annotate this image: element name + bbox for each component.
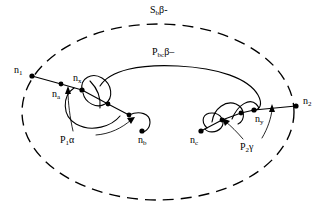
node-dot-n2[interactable] bbox=[293, 103, 298, 108]
subpath-label-p1-alpha: P1α bbox=[60, 135, 74, 147]
node-label-ny-sub: y bbox=[260, 118, 264, 126]
node-dot-nx[interactable] bbox=[79, 87, 84, 92]
left-knot-right-hook bbox=[129, 113, 150, 132]
node-label-nx-sub: x bbox=[78, 77, 82, 85]
node-label-nb-sub: b bbox=[143, 139, 147, 147]
node-label-nc: nc bbox=[190, 135, 198, 147]
node-dot-nc[interactable] bbox=[198, 128, 203, 133]
leader-p2-to-knot bbox=[226, 122, 243, 139]
node-label-na-sub: a bbox=[57, 93, 60, 101]
diagram-canvas bbox=[0, 0, 328, 214]
main-path-pbc-arc bbox=[100, 66, 261, 110]
p1-label-suffix: α bbox=[69, 134, 74, 145]
node-label-nc-sub: c bbox=[195, 139, 198, 147]
node-dot-right-mid[interactable] bbox=[220, 118, 225, 123]
node-label-nx: nx bbox=[73, 73, 82, 85]
node-label-ny: ny bbox=[255, 114, 264, 126]
left-knot-lower-loop bbox=[65, 88, 120, 128]
main-path-label-suffix: β– bbox=[164, 46, 174, 57]
subpath-label-p2-gamma: P2γ bbox=[240, 142, 253, 154]
node-label-n2-sub: 2 bbox=[308, 100, 312, 108]
node-dot-n1[interactable] bbox=[29, 73, 34, 78]
node-dot-ny[interactable] bbox=[251, 107, 256, 112]
left-knot-upper-loop bbox=[82, 76, 111, 106]
node-dot-left-hook[interactable] bbox=[127, 113, 132, 118]
arrowhead-p1-to-nb bbox=[127, 117, 135, 124]
diagram-root: Sbβ- Pbcβ– P1α P2γ n1 na nx nb nc ny n2 bbox=[0, 0, 328, 214]
node-label-na: na bbox=[52, 89, 60, 101]
node-dot-right-arch[interactable] bbox=[239, 111, 244, 116]
node-dot-nb[interactable] bbox=[139, 128, 144, 133]
node-label-n1: n1 bbox=[14, 65, 23, 77]
node-dot-left-mid[interactable] bbox=[106, 102, 111, 107]
boundary-label-sb-beta: Sbβ- bbox=[150, 5, 167, 17]
arrowhead-p1-to-na bbox=[65, 86, 71, 94]
leader-p1-to-na bbox=[68, 92, 73, 131]
node-label-n2: n2 bbox=[303, 96, 312, 108]
node-label-n1-sub: 1 bbox=[19, 69, 23, 77]
boundary-label-suffix: β- bbox=[159, 4, 167, 15]
node-dot-na[interactable] bbox=[59, 82, 64, 87]
main-path-label-pbc-beta: Pbcβ– bbox=[152, 47, 174, 59]
p2-label-suffix: γ bbox=[249, 141, 253, 152]
spine-right-segment bbox=[201, 106, 296, 131]
node-label-nb: nb bbox=[138, 135, 147, 147]
